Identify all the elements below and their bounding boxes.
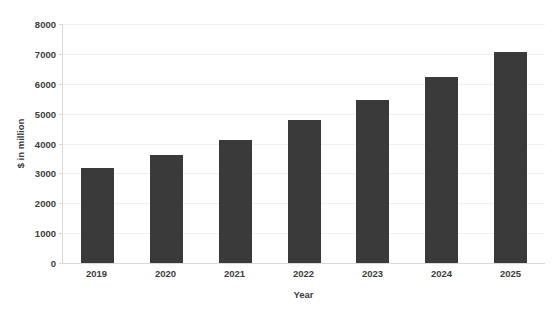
bar-slot: [338, 24, 407, 263]
y-axis-tick-label: 1000: [20, 228, 56, 239]
y-axis-tick-label: 4000: [20, 138, 56, 149]
x-axis-title: Year: [62, 289, 545, 300]
x-axis-tick-label: 2020: [131, 268, 200, 284]
bars-layer: [63, 24, 545, 263]
y-axis-tick-label: 2000: [20, 198, 56, 209]
x-axis-tick-label: 2021: [200, 268, 269, 284]
x-axis-tick-label: 2025: [476, 268, 545, 284]
x-axis-tick-label: 2022: [269, 268, 338, 284]
bar-2022[interactable]: [288, 120, 321, 263]
bar-slot: [201, 24, 270, 263]
bar-slot: [63, 24, 132, 263]
bar-slot: [407, 24, 476, 263]
bar-2024[interactable]: [425, 77, 458, 263]
bar-chart: $ in million 800070006000500040003000200…: [0, 0, 554, 319]
y-axis-tick-label: 5000: [20, 108, 56, 119]
y-axis-tick-mark: [59, 263, 63, 264]
bar-2019[interactable]: [81, 168, 114, 263]
bar-2020[interactable]: [150, 155, 183, 263]
x-axis-tick-label: 2023: [338, 268, 407, 284]
bar-slot: [132, 24, 201, 263]
bar-slot: [270, 24, 339, 263]
x-axis-tick-label: 2024: [407, 268, 476, 284]
plot-area: [62, 24, 545, 263]
bar-slot: [476, 24, 545, 263]
bar-2021[interactable]: [219, 140, 252, 263]
y-axis-tick-labels: 800070006000500040003000200010000: [20, 24, 56, 263]
y-axis-tick-label: 3000: [20, 168, 56, 179]
y-axis-tick-label: 7000: [20, 48, 56, 59]
y-axis-tick-label: 8000: [20, 19, 56, 30]
y-axis-tick-label: 6000: [20, 78, 56, 89]
x-axis-tick-label: 2019: [62, 268, 131, 284]
x-axis-tick-labels: 2019202020212022202320242025: [62, 268, 545, 284]
bar-2023[interactable]: [356, 100, 389, 263]
axis-baseline: [63, 263, 545, 264]
bar-2025[interactable]: [494, 52, 527, 264]
y-axis-tick-label: 0: [20, 258, 56, 269]
